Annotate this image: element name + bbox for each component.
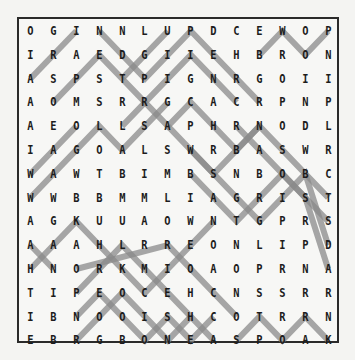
letter-cell[interactable]: E — [21, 328, 39, 352]
letter-cell[interactable]: O — [273, 162, 291, 186]
letter-cell[interactable]: D — [204, 19, 222, 43]
letter-cell[interactable]: E — [182, 233, 200, 257]
letter-cell[interactable]: I — [296, 67, 314, 91]
letter-cell[interactable]: G — [44, 209, 62, 233]
letter-cell[interactable]: S — [250, 281, 268, 305]
letter-cell[interactable]: N — [113, 19, 131, 43]
letter-cell[interactable]: W — [67, 162, 85, 186]
letter-cell[interactable]: L — [136, 19, 154, 43]
letter-cell[interactable]: D — [296, 114, 314, 138]
letter-cell[interactable]: H — [21, 257, 39, 281]
letter-cell[interactable]: C — [227, 19, 245, 43]
letter-cell[interactable]: G — [227, 186, 245, 210]
letter-cell[interactable]: O — [136, 328, 154, 352]
letter-cell[interactable]: P — [67, 67, 85, 91]
letter-cell[interactable]: S — [136, 114, 154, 138]
letter-cell[interactable]: L — [319, 114, 337, 138]
letter-cell[interactable]: N — [204, 67, 222, 91]
letter-cell[interactable]: A — [44, 162, 62, 186]
letter-cell[interactable]: O — [67, 257, 85, 281]
letter-cell[interactable]: I — [44, 281, 62, 305]
letter-cell[interactable]: R — [44, 43, 62, 67]
letter-cell[interactable]: A — [67, 233, 85, 257]
letter-cell[interactable]: G — [250, 209, 268, 233]
letter-cell[interactable]: R — [319, 281, 337, 305]
letter-cell[interactable]: S — [90, 67, 108, 91]
letter-cell[interactable]: I — [273, 233, 291, 257]
letter-cell[interactable]: P — [250, 328, 268, 352]
letter-cell[interactable]: A — [21, 67, 39, 91]
letter-cell[interactable]: B — [90, 186, 108, 210]
letter-cell[interactable]: E — [159, 281, 177, 305]
letter-cell[interactable]: C — [204, 281, 222, 305]
letter-cell[interactable]: N — [319, 43, 337, 67]
letter-cell[interactable]: R — [204, 138, 222, 162]
letter-cell[interactable]: A — [21, 114, 39, 138]
letter-cell[interactable]: N — [204, 209, 222, 233]
letter-cell[interactable]: A — [250, 138, 268, 162]
letter-cell[interactable]: O — [227, 305, 245, 329]
letter-cell[interactable]: H — [182, 305, 200, 329]
letter-cell[interactable]: P — [67, 281, 85, 305]
letter-cell[interactable]: P — [319, 19, 337, 43]
letter-cell[interactable]: T — [113, 67, 131, 91]
letter-cell[interactable]: W — [182, 138, 200, 162]
letter-cell[interactable]: A — [204, 186, 222, 210]
letter-cell[interactable]: C — [136, 281, 154, 305]
letter-cell[interactable]: I — [67, 19, 85, 43]
letter-cell[interactable]: I — [136, 305, 154, 329]
letter-cell[interactable]: P — [273, 90, 291, 114]
letter-cell[interactable]: C — [204, 305, 222, 329]
letter-cell[interactable]: K — [319, 328, 337, 352]
letter-cell[interactable]: W — [21, 186, 39, 210]
letter-cell[interactable]: W — [182, 209, 200, 233]
letter-cell[interactable]: I — [21, 138, 39, 162]
letter-cell[interactable]: G — [159, 90, 177, 114]
letter-cell[interactable]: A — [204, 90, 222, 114]
letter-cell[interactable]: O — [113, 281, 131, 305]
letter-cell[interactable]: I — [159, 257, 177, 281]
letter-cell[interactable]: I — [136, 162, 154, 186]
letter-cell[interactable]: I — [182, 43, 200, 67]
letter-cell[interactable]: O — [273, 67, 291, 91]
letter-cell[interactable]: H — [204, 114, 222, 138]
letter-cell[interactable]: A — [44, 138, 62, 162]
letter-cell[interactable]: O — [90, 305, 108, 329]
letter-cell[interactable]: R — [319, 138, 337, 162]
letter-cell[interactable]: N — [67, 305, 85, 329]
letter-cell[interactable]: N — [227, 162, 245, 186]
letter-cell[interactable]: A — [21, 233, 39, 257]
letter-cell[interactable]: B — [113, 162, 131, 186]
letter-cell[interactable]: P — [182, 19, 200, 43]
letter-cell[interactable]: W — [44, 186, 62, 210]
letter-cell[interactable]: L — [159, 186, 177, 210]
letter-cell[interactable]: B — [67, 186, 85, 210]
letter-cell[interactable]: O — [204, 233, 222, 257]
letter-cell[interactable]: L — [113, 233, 131, 257]
letter-cell[interactable]: H — [227, 43, 245, 67]
letter-cell[interactable]: O — [182, 257, 200, 281]
letter-cell[interactable]: C — [319, 162, 337, 186]
letter-cell[interactable]: A — [296, 328, 314, 352]
letter-cell[interactable]: E — [90, 43, 108, 67]
letter-cell[interactable]: G — [90, 328, 108, 352]
letter-cell[interactable]: E — [44, 114, 62, 138]
letter-cell[interactable]: A — [21, 209, 39, 233]
letter-cell[interactable]: P — [182, 114, 200, 138]
letter-cell[interactable]: N — [44, 257, 62, 281]
letter-cell[interactable]: S — [159, 138, 177, 162]
letter-cell[interactable]: P — [136, 67, 154, 91]
letter-cell[interactable]: S — [273, 138, 291, 162]
letter-cell[interactable]: O — [227, 257, 245, 281]
letter-cell[interactable]: G — [67, 138, 85, 162]
letter-cell[interactable]: R — [67, 328, 85, 352]
letter-cell[interactable]: N — [227, 281, 245, 305]
letter-cell[interactable]: O — [159, 209, 177, 233]
letter-cell[interactable]: R — [90, 257, 108, 281]
letter-cell[interactable]: A — [113, 138, 131, 162]
letter-cell[interactable]: N — [250, 114, 268, 138]
letter-cell[interactable]: C — [227, 90, 245, 114]
letter-cell[interactable]: N — [90, 19, 108, 43]
letter-cell[interactable]: S — [227, 328, 245, 352]
letter-cell[interactable]: B — [250, 43, 268, 67]
